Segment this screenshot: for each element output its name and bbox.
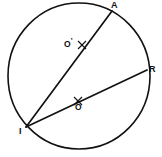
point-label-o-prime-mark: ' bbox=[71, 36, 73, 45]
point-label-o-prime: O' bbox=[64, 37, 73, 48]
tick-mark-o-prime bbox=[78, 41, 86, 49]
vertex-label-r: R bbox=[149, 65, 155, 74]
chord-i-r bbox=[26, 70, 147, 127]
vertex-label-i: I bbox=[19, 127, 21, 136]
point-label-o: O bbox=[75, 103, 82, 112]
circle-outline bbox=[8, 3, 150, 149]
chord-i-a bbox=[26, 11, 112, 127]
geometry-figure: A R I O' O bbox=[0, 0, 162, 157]
point-label-o-prime-letter: O bbox=[64, 39, 71, 49]
vertex-label-a: A bbox=[111, 1, 117, 10]
geometry-canvas bbox=[0, 0, 162, 157]
